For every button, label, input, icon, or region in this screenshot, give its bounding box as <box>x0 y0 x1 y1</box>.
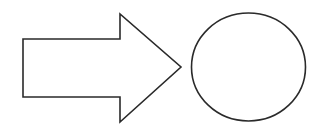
diagram-canvas <box>0 0 320 131</box>
circle-shape <box>192 13 306 121</box>
diagram-svg <box>0 0 320 131</box>
right-arrow-shape <box>23 14 181 122</box>
